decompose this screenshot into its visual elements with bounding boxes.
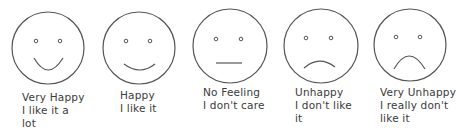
label-description: I don't like xyxy=(295,99,352,112)
very-happy-label: Very Happy I like it a lot xyxy=(22,91,85,130)
no-feeling-label: No Feeling I don't care xyxy=(203,86,265,112)
very-happy-face-icon xyxy=(12,12,84,84)
label-title: Very Happy xyxy=(22,91,85,104)
very-unhappy-face-icon xyxy=(374,9,446,81)
unhappy-face-icon xyxy=(284,9,358,83)
happy-face-icon xyxy=(103,12,175,84)
unhappy-label: Unhappy I don't like it xyxy=(295,86,352,125)
label-description: like it xyxy=(380,112,456,125)
label-title: Very Unhappy xyxy=(380,86,456,99)
label-description: it xyxy=(295,112,352,125)
neutral-face-icon xyxy=(193,9,267,83)
label-title: Unhappy xyxy=(295,86,352,99)
label-title: Happy xyxy=(120,89,157,102)
label-description: I like it xyxy=(120,102,157,115)
label-description: I really don't xyxy=(380,99,456,112)
label-title: No Feeling xyxy=(203,86,265,99)
label-description: I like it a xyxy=(22,104,85,117)
very-unhappy-label: Very Unhappy I really don't like it xyxy=(380,86,456,125)
happy-label: Happy I like it xyxy=(120,89,157,115)
label-description: lot xyxy=(22,117,85,130)
label-description: I don't care xyxy=(203,99,265,112)
